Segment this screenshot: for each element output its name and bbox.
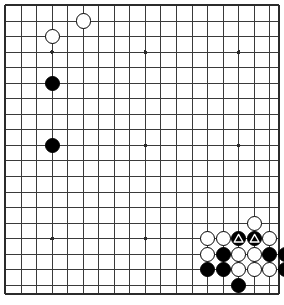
white-stone-row16-c14[interactable] <box>231 262 246 277</box>
white-stone-row16-c15[interactable] <box>247 262 262 277</box>
white-stone-row14-c13[interactable] <box>216 231 231 246</box>
stone-layer <box>0 0 284 305</box>
black-stone-row15-c17[interactable] <box>278 247 284 262</box>
go-board-diagram <box>0 0 284 305</box>
black-stone-row15-c16[interactable] <box>262 247 277 262</box>
white-stone-row16-c16[interactable] <box>262 262 277 277</box>
black-stone-left-upper[interactable] <box>45 76 60 91</box>
white-stone-lower-right-high[interactable] <box>247 216 262 231</box>
black-stone-row16-c12[interactable] <box>200 262 215 277</box>
white-stone-row15-c12[interactable] <box>200 247 215 262</box>
black-stone-left-star[interactable] <box>45 138 60 153</box>
black-stone-row16-c17[interactable] <box>278 262 284 277</box>
black-stone-marked-row14-c15[interactable] <box>247 231 262 246</box>
white-stone-upper-left-high[interactable] <box>76 13 91 28</box>
white-stone-row15-c15[interactable] <box>247 247 262 262</box>
white-stone-upper-left-corner[interactable] <box>45 29 60 44</box>
black-stone-row16-c13[interactable] <box>216 262 231 277</box>
white-stone-row14-c12[interactable] <box>200 231 215 246</box>
black-stone-bottom-edge[interactable] <box>231 278 246 293</box>
white-stone-row14-c16[interactable] <box>262 231 277 246</box>
white-stone-row15-c14[interactable] <box>231 247 246 262</box>
black-stone-row15-c13[interactable] <box>216 247 231 262</box>
black-stone-marked-row14-c14[interactable] <box>231 231 246 246</box>
